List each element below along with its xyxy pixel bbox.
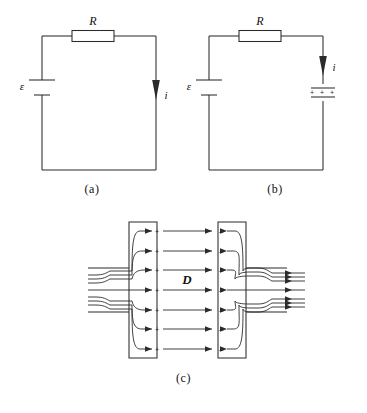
plus-sign-2: +: [155, 248, 159, 255]
left-plate-arrowheads: [145, 228, 152, 351]
resistor-a: [72, 31, 114, 42]
caption-c: (c): [0, 371, 367, 386]
left-arrow-2: [145, 248, 152, 253]
battery-b: [196, 80, 222, 95]
D-arrow-2: [205, 248, 212, 253]
right-entry-arrow-2: [220, 248, 227, 253]
battery-a: [29, 80, 55, 95]
current-arrowhead: [319, 56, 327, 76]
lead-in-1: [88, 271, 132, 275]
emf-label-b: ε: [187, 80, 192, 92]
circuit-a-svg: R ε i: [0, 0, 184, 180]
right-curve-6: [227, 305, 239, 329]
physics-figure: R ε i (a): [0, 0, 367, 413]
lead-in-6: [88, 301, 132, 305]
right-entry-arrow-5: [220, 307, 227, 312]
D-arrow-1: [205, 228, 212, 233]
current-arrow-a: [152, 80, 160, 100]
lead-in-3: [88, 279, 132, 283]
right-entry-arrow-7: [220, 346, 227, 351]
resistor-label-a: R: [88, 14, 97, 28]
out-arrow-3: [285, 278, 292, 283]
resistor-body: [239, 31, 281, 42]
capacitor-charge-label: + + +: [310, 89, 336, 96]
caption-b: (b): [183, 182, 367, 197]
displacement-field-lines: [163, 231, 212, 349]
capacitor-b: + + +: [310, 88, 336, 97]
plus-sign-4: +: [155, 287, 159, 294]
left-arrow-7: [145, 346, 152, 351]
out-arrow-7: [285, 304, 292, 309]
D-arrow-6: [205, 326, 212, 331]
capacitor-gap-svg: + + + + + + +: [0, 205, 367, 375]
D-arrow-4: [205, 287, 212, 292]
caption-a: (a): [0, 182, 184, 197]
right-curve-5: [227, 301, 236, 310]
current-label-a: i: [164, 89, 167, 101]
left-arrow-1: [145, 228, 152, 233]
left-arrow-3: [145, 267, 152, 272]
resistor-b: [239, 31, 281, 42]
circuit-b-svg: R ε + + + i: [183, 0, 367, 180]
panel-b-capacitor-circuit: R ε + + + i (b): [183, 0, 367, 205]
lead-in-2: [88, 275, 132, 279]
right-entry-arrow-1: [220, 228, 227, 233]
circuit-a-wire-loop: [42, 36, 156, 170]
panel-c-displacement-current: + + + + + + +: [0, 205, 367, 413]
plus-sign-3: +: [155, 267, 159, 274]
current-label-b: i: [332, 61, 335, 73]
D-arrow-5: [205, 307, 212, 312]
left-curve-5: [132, 301, 152, 310]
right-curve-3: [227, 270, 236, 279]
plus-sign-1: +: [155, 228, 159, 235]
displacement-field-arrowheads: [205, 228, 212, 351]
lead-in-5: [88, 297, 132, 301]
plus-sign-5: +: [155, 307, 159, 314]
circuit-b-wire-loop: [209, 36, 323, 170]
right-curve-2: [227, 251, 239, 275]
displacement-field-label: D: [181, 272, 192, 287]
left-curve-2: [132, 251, 152, 275]
left-arrow-4: [145, 287, 152, 292]
plus-sign-7: +: [155, 346, 159, 353]
resistor-label-b: R: [255, 14, 264, 28]
out-arrow-4: [285, 287, 292, 292]
outgoing-bundle-arrowheads: [285, 270, 292, 309]
D-arrow-7: [205, 346, 212, 351]
left-arrow-5: [145, 307, 152, 312]
current-arrowhead: [152, 80, 160, 100]
lead-in-7: [88, 305, 132, 309]
left-arrow-6: [145, 326, 152, 331]
D-arrow-3: [205, 267, 212, 272]
left-curve-3: [132, 270, 152, 279]
panel-a-simple-circuit: R ε i (a): [0, 0, 184, 205]
right-plate-current-curves: [227, 231, 243, 349]
left-curve-6: [132, 305, 152, 329]
incoming-lead-wires: [88, 271, 132, 309]
right-entry-arrow-3: [220, 267, 227, 272]
resistor-body: [72, 31, 114, 42]
right-entry-arrow-6: [220, 326, 227, 331]
current-arrow-b: [319, 56, 327, 76]
right-entry-arrow-4: [220, 287, 227, 292]
plus-sign-6: +: [155, 326, 159, 333]
emf-label-a: ε: [20, 80, 25, 92]
